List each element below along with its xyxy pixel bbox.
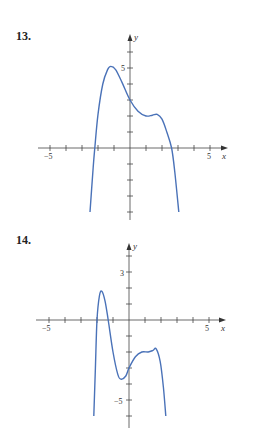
x-arrow-icon [221,146,228,151]
x-tick-label-5: 5 [207,152,211,161]
x-tick-label-neg5: −5 [44,152,53,161]
y-arrow-icon [128,34,133,41]
y-axis-label: y [133,32,138,42]
x-axis-label: x [221,151,226,161]
chart-13-curve [90,66,179,212]
chart-13: −5 5 5 x y [0,0,263,447]
y-tick-label-5: 5 [121,64,125,73]
chart-13-axes [38,40,222,220]
